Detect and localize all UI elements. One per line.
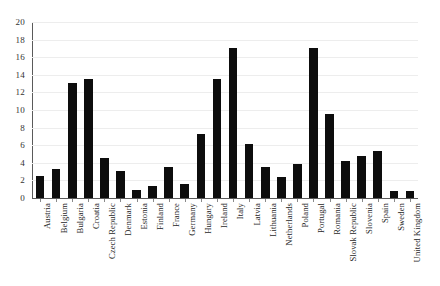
x-tick-label-united-kingdom: United Kingdom [413,203,422,262]
x-tick-mark [72,199,73,202]
y-tick-label-20: 20 [16,18,25,27]
x-tick-mark [88,199,89,202]
x-tick-label-austria: Austria [43,203,52,229]
y-tick-label-2: 2 [20,176,25,185]
x-tick-mark [201,199,202,202]
x-tick-label-latvia: Latvia [253,203,262,226]
bar [325,114,334,198]
bar [245,144,254,198]
bar [180,184,189,198]
x-tick-label-finland: Finland [156,203,165,230]
x-tick-label-estonia: Estonia [140,203,149,229]
bar [277,177,286,198]
y-tick-label-12: 12 [16,88,25,97]
y-tick-label-6: 6 [20,141,25,150]
x-tick-mark [410,199,411,202]
x-tick-mark [249,199,250,202]
bar [373,151,382,198]
x-tick-label-france: France [172,203,181,227]
x-tick-mark [40,199,41,202]
x-tick-mark [346,199,347,202]
x-tick-mark [120,199,121,202]
y-tick-label-8: 8 [20,123,25,132]
x-tick-label-lithuania: Lithuania [269,203,278,237]
x-tick-mark [153,199,154,202]
bar [116,171,125,198]
y-tick-label-18: 18 [16,35,25,44]
bar [164,167,173,198]
bar [309,48,318,198]
bar [390,191,399,198]
x-tick-mark [56,199,57,202]
x-tick-mark [281,199,282,202]
x-tick-mark [378,199,379,202]
x-tick-mark [330,199,331,202]
y-tick-label-10: 10 [16,106,25,115]
bar-series [32,22,418,198]
x-tick-mark [185,199,186,202]
bar-chart: 02468101214161820 AustriaBelgiumBulgaria… [0,0,440,286]
x-tick-mark [394,199,395,202]
bar [293,164,302,198]
x-tick-mark [104,199,105,202]
bar [197,134,206,198]
y-tick-label-4: 4 [20,158,25,167]
x-tick-label-croatia: Croatia [92,203,101,229]
bar [261,167,270,198]
y-axis-tick-labels: 02468101214161820 [0,22,30,198]
bar [341,161,350,198]
x-tick-label-netherlands: Netherlands [285,203,294,246]
x-tick-label-portugal: Portugal [317,203,326,233]
x-tick-label-ireland: Ireland [220,203,229,228]
x-tick-mark [233,199,234,202]
x-tick-label-germany: Germany [188,203,197,236]
bar [36,176,45,198]
x-tick-label-bulgaria: Bulgaria [76,203,85,233]
bar [132,190,141,198]
x-tick-label-italy: Italy [236,203,245,219]
x-tick-label-belgium: Belgium [60,203,69,233]
bar [68,83,77,198]
x-tick-label-spain: Spain [381,203,390,223]
x-axis-tick-labels: AustriaBelgiumBulgariaCroatiaCzech Repub… [32,203,418,285]
bar [52,169,61,198]
plot-area [32,22,418,198]
y-tick-label-14: 14 [16,70,25,79]
x-tick-mark [362,199,363,202]
x-tick-mark [313,199,314,202]
x-tick-label-czech-republic: Czech Republic [108,203,117,259]
x-tick-label-poland: Poland [301,203,310,227]
x-tick-label-denmark: Denmark [124,203,133,236]
bar [229,48,238,198]
bar [100,158,109,198]
bar [406,191,415,198]
bar [84,79,93,198]
x-tick-label-slovak-republic: Slovak Republic [349,203,358,262]
x-tick-mark [297,199,298,202]
x-tick-label-hungary: Hungary [204,203,213,234]
x-tick-mark [169,199,170,202]
x-tick-label-slovenia: Slovenia [365,203,374,234]
bar [357,156,366,198]
x-tick-mark [217,199,218,202]
bar [213,79,222,198]
x-axis-tick-marks [32,199,418,202]
x-tick-mark [265,199,266,202]
y-tick-label-16: 16 [16,53,25,62]
bar [148,186,157,198]
y-tick-label-0: 0 [20,194,25,203]
x-tick-mark [137,199,138,202]
x-tick-label-sweden: Sweden [397,203,406,231]
x-tick-label-romania: Romania [333,203,342,235]
